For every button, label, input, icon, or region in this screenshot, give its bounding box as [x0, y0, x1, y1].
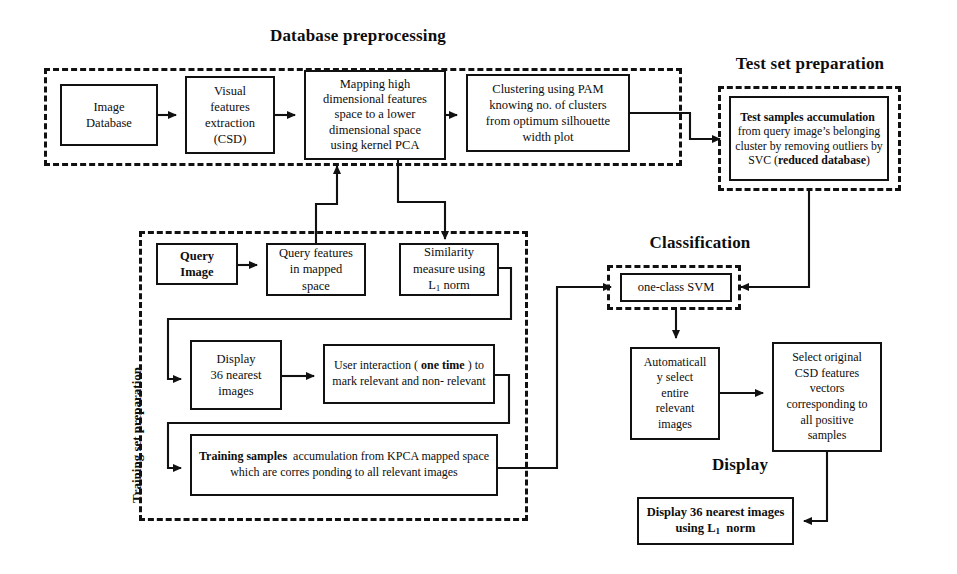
box-one-class-svm-label: one-class SVM [638, 279, 715, 295]
arrow-csd-to-display-result [804, 452, 827, 521]
arrow-kpca-to-similarity [398, 160, 445, 239]
box-image-database-label: ImageDatabase [86, 99, 132, 132]
box-pam-clustering-label: Clustering using PAMknowing no. of clust… [486, 81, 610, 146]
box-image-database[interactable]: ImageDatabase [60, 84, 158, 146]
box-auto-select-relevant-label: Automatically selectentirerelevantimages [644, 355, 707, 433]
box-one-class-svm[interactable]: one-class SVM [620, 273, 732, 302]
box-kernel-pca[interactable]: Mapping highdimensional featuresspace to… [304, 70, 446, 160]
box-pam-clustering[interactable]: Clustering using PAMknowing no. of clust… [466, 74, 630, 152]
box-display-36-nearest[interactable]: Display36 nearestimages [190, 340, 282, 410]
box-test-samples-accumulation-label: Test samples accumulation from query ima… [735, 110, 883, 168]
box-display-result[interactable]: Display 36 nearest images using L1 norm [637, 497, 794, 545]
box-display-result-label: Display 36 nearest images using L1 norm [643, 504, 788, 538]
box-select-csd-features-label: Select originalCSD featuresvectorscorres… [787, 350, 868, 444]
box-auto-select-relevant[interactable]: Automatically selectentirerelevantimages [630, 347, 720, 440]
box-visual-features-extraction[interactable]: Visualfeaturesextraction(CSD) [185, 76, 275, 154]
box-query-features-label: Query featuresin mappedspace [279, 245, 353, 294]
section-title-database-preprocessing: Database preprocessing [258, 26, 458, 46]
box-query-features[interactable]: Query featuresin mappedspace [266, 243, 366, 296]
box-similarity-measure[interactable]: Similaritymeasure usingL1 norm [399, 243, 499, 296]
flowchart-canvas: Database preprocessing Test set preparat… [0, 0, 957, 574]
box-similarity-measure-label: Similaritymeasure usingL1 norm [413, 244, 485, 294]
section-title-classification: Classification [635, 233, 765, 253]
box-display-36-nearest-label: Display36 nearestimages [210, 351, 261, 400]
box-query-image-label: QueryImage [180, 248, 214, 281]
box-training-samples-accumulation[interactable]: Training samples accumulation from KPCA … [190, 434, 498, 496]
box-visual-features-extraction-label: Visualfeaturesextraction(CSD) [205, 83, 255, 148]
section-title-test-set-preparation: Test set preparation [720, 54, 900, 74]
box-user-interaction-label: User interaction ( one time ) to mark re… [329, 358, 489, 389]
box-query-image[interactable]: QueryImage [156, 243, 238, 285]
box-select-csd-features[interactable]: Select originalCSD featuresvectorscorres… [772, 342, 882, 452]
box-user-interaction[interactable]: User interaction ( one time ) to mark re… [323, 344, 495, 404]
box-kernel-pca-label: Mapping highdimensional featuresspace to… [323, 77, 427, 153]
section-title-display: Display [690, 455, 790, 475]
box-test-samples-accumulation[interactable]: Test samples accumulation from query ima… [729, 96, 889, 181]
box-training-samples-accumulation-label: Training samples accumulation from KPCA … [196, 449, 492, 480]
